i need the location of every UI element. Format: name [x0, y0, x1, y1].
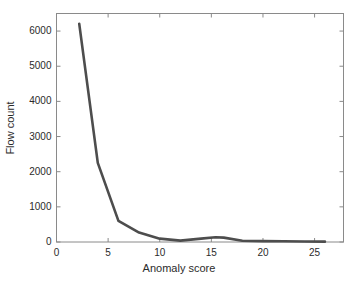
axis-tick-marks	[57, 14, 344, 243]
x-tick-label: 0	[54, 248, 60, 258]
y-tick-label: 4000	[29, 96, 51, 106]
series-line-flow-count	[79, 24, 325, 242]
x-tick-label: 15	[206, 248, 217, 258]
chart-figure: 0510152025 0100020003000400050006000 Ano…	[0, 0, 358, 289]
y-tick-label: 1000	[29, 202, 51, 212]
y-axis-title: Flow count	[4, 101, 16, 154]
y-tick-label: 6000	[29, 26, 51, 36]
y-tick-label: 0	[46, 237, 52, 247]
x-tick-label: 25	[309, 248, 320, 258]
line-chart-plot	[0, 0, 358, 289]
y-axis-title-wrap: Flow count	[2, 0, 18, 255]
plot-axes-frame	[57, 14, 344, 243]
y-tick-label: 5000	[29, 61, 51, 71]
x-tick-label: 10	[154, 248, 165, 258]
y-tick-label: 2000	[29, 167, 51, 177]
x-axis-title: Anomaly score	[0, 262, 358, 274]
y-tick-label: 3000	[29, 132, 51, 142]
x-tick-label: 5	[105, 248, 111, 258]
x-tick-label: 20	[257, 248, 268, 258]
